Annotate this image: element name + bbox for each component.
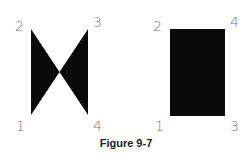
- bowtie-vertex-label-4: 4: [93, 118, 102, 134]
- bowtie-vertex-label-3: 3: [93, 14, 102, 30]
- rectangle-vertex-label-2: 2: [153, 18, 162, 34]
- bowtie-vertex-label-1: 1: [16, 118, 25, 134]
- rectangle-vertex-label-1: 1: [155, 118, 164, 134]
- rectangle-vertex-label-3: 3: [230, 118, 239, 134]
- rectangle-polygon: [170, 29, 225, 116]
- bowtie-polygon: [31, 29, 88, 115]
- rectangle-shape: 2 4 1 3: [153, 14, 239, 134]
- figure-caption: Figure 9-7: [0, 137, 252, 149]
- figure-canvas: 2 3 1 4 2 4 1 3: [0, 0, 252, 154]
- rectangle-vertex-label-4: 4: [230, 14, 239, 30]
- bowtie-vertex-label-2: 2: [15, 18, 24, 34]
- bowtie-shape: 2 3 1 4: [15, 14, 102, 134]
